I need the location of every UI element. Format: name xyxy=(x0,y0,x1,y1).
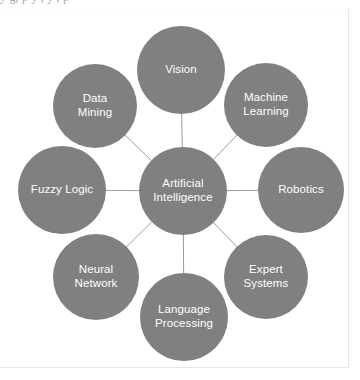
node-fuzzy-logic[interactable]: Fuzzy Logic xyxy=(18,146,106,234)
node-label-expert-systems: Expert Systems xyxy=(244,263,289,290)
connector-expert-systems xyxy=(214,223,237,247)
node-label-fuzzy-logic: Fuzzy Logic xyxy=(31,183,93,197)
node-label-data-mining: Data Mining xyxy=(78,92,112,119)
node-language-processing[interactable]: Language Processing xyxy=(140,273,228,361)
node-label-machine-learning: Machine Learning xyxy=(243,91,289,118)
node-label-vision: Vision xyxy=(165,63,197,77)
node-artificial-intelligence[interactable]: Artificial Intelligence xyxy=(139,147,227,235)
connector-machine-learning xyxy=(214,135,237,159)
node-data-mining[interactable]: Data Mining xyxy=(53,64,137,148)
node-neural-network[interactable]: Neural Network xyxy=(53,234,139,320)
node-label-language-processing: Language Processing xyxy=(155,303,213,330)
connector-data-mining xyxy=(125,135,151,160)
node-expert-systems[interactable]: Expert Systems xyxy=(224,235,308,319)
node-robotics[interactable]: Robotics xyxy=(258,147,344,233)
node-vision[interactable]: Vision xyxy=(137,26,225,114)
node-label-artificial-intelligence: Artificial Intelligence xyxy=(153,177,212,204)
ai-concept-map-diagram: VisionMachine LearningRoboticsExpert Sys… xyxy=(0,0,360,380)
node-label-neural-network: Neural Network xyxy=(75,263,118,290)
node-label-robotics: Robotics xyxy=(278,183,324,197)
page-canvas: y g, p y , y , p VisionMachine LearningR… xyxy=(0,0,360,380)
connector-neural-network xyxy=(127,222,152,247)
node-machine-learning[interactable]: Machine Learning xyxy=(224,63,308,147)
connector-vision xyxy=(182,114,183,147)
